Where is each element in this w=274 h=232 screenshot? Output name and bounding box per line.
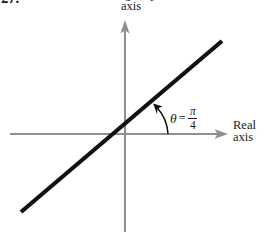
imaginary-axis-label: Imaginary axis bbox=[94, 0, 168, 13]
problem-number: 27. bbox=[1, 0, 19, 6]
pi-over-four-fraction: π 4 bbox=[188, 106, 197, 131]
equals-sign: = bbox=[179, 112, 186, 124]
figure-canvas bbox=[0, 0, 274, 232]
real-axis-label: Real axis bbox=[233, 119, 256, 144]
fraction-denominator: 4 bbox=[189, 120, 197, 132]
imaginary-axis-label-line2: axis bbox=[94, 0, 168, 13]
complex-plane-figure: 27. Imaginary axis Real axis θ = π 4 bbox=[0, 0, 274, 232]
theta-equation: θ = π 4 bbox=[170, 106, 197, 131]
theta-symbol: θ bbox=[170, 112, 177, 126]
angle-arc bbox=[158, 108, 169, 134]
fraction-numerator: π bbox=[189, 106, 197, 118]
real-axis-label-line2: axis bbox=[233, 131, 256, 144]
